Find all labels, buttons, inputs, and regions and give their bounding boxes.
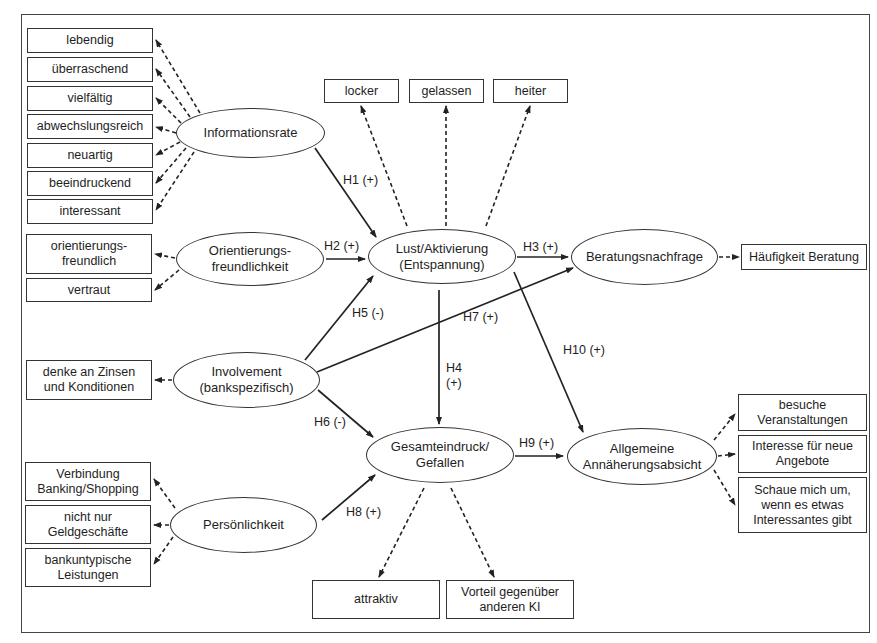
construct-annaeherungsabsicht: Allgemeine Annäherungsabsicht xyxy=(567,428,717,485)
indicator-haeufigkeit-beratung: Häufigkeit Beratung xyxy=(741,244,867,270)
indicator-neuartig: neuartig xyxy=(27,143,153,168)
construct-orientierungsfreundlichkeit: Orientierungs- freundlichkeit xyxy=(176,232,324,286)
indicator-bankuntypische-leistungen: bankuntypische Leistungen xyxy=(25,548,151,587)
indicator-vorteil-gegenueber-ki: Vorteil gegenüber anderen KI xyxy=(446,580,574,619)
construct-persoenlichkeit: Persönlichkeit xyxy=(170,497,317,553)
indicator-locker: locker xyxy=(324,79,399,103)
hypothesis-h9: H9 (+) xyxy=(519,436,554,451)
indicator-zinsen-konditionen: denke an Zinsen und Konditionen xyxy=(26,360,152,400)
indicator-vertraut: vertraut xyxy=(26,278,152,302)
indicator-gelassen: gelassen xyxy=(409,79,484,103)
indicator-interessant: interessant xyxy=(27,199,153,224)
indicator-orientierungsfreundlich: orientierungs- freundlich xyxy=(26,234,152,274)
indicator-schaue-mich-um: Schaue mich um, wenn es etwas Interessan… xyxy=(738,477,867,533)
construct-gesamteindruck: Gesamteindruck/ Gefallen xyxy=(366,427,514,483)
hypothesis-h3: H3 (+) xyxy=(523,240,558,255)
construct-informationsrate: Informationsrate xyxy=(176,108,325,158)
indicator-interesse-neue-angebote: Interesse für neue Angebote xyxy=(738,435,867,473)
hypothesis-h2: H2 (+) xyxy=(324,239,359,254)
hypothesis-h7: H7 (+) xyxy=(463,310,498,325)
hypothesis-h4: H4 (+) xyxy=(446,361,462,391)
construct-lust-aktivierung: Lust/Aktivierung (Entspannung) xyxy=(368,229,516,284)
hypothesis-h10: H10 (+) xyxy=(563,343,605,358)
indicator-attraktiv: attraktiv xyxy=(312,580,440,619)
indicator-lebendig: lebendig xyxy=(27,28,153,53)
indicator-vielfaeltig: vielfältig xyxy=(27,86,153,111)
construct-beratungsnachfrage: Beratungsnachfrage xyxy=(571,229,718,285)
hypothesis-h1: H1 (+) xyxy=(343,173,378,188)
indicator-heiter: heiter xyxy=(493,79,568,103)
indicator-abwechslungsreich: abwechslungsreich xyxy=(27,114,153,139)
indicator-nicht-nur-geldgeschaefte: nicht nur Geldgeschäfte xyxy=(25,505,151,544)
hypothesis-h5: H5 (-) xyxy=(352,306,384,321)
hypothesis-h6: H6 (-) xyxy=(314,415,346,430)
indicator-beeindruckend: beeindruckend xyxy=(27,171,153,196)
hypothesis-h8: H8 (+) xyxy=(346,505,381,520)
indicator-ueberraschend: überraschend xyxy=(27,57,153,82)
construct-involvement: Involvement (bankspezifisch) xyxy=(173,352,320,408)
indicator-verbindung-banking-shopping: Verbindung Banking/Shopping xyxy=(25,462,151,501)
indicator-besuche-veranstaltungen: besuche Veranstaltungen xyxy=(738,394,867,431)
